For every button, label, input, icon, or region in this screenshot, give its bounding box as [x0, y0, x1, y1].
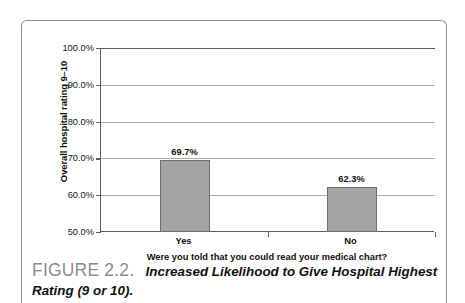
x-category-label: No	[344, 236, 356, 246]
y-tick-label: 100.0%	[32, 43, 94, 53]
gridline	[101, 195, 435, 196]
bar-value-label: 69.7%	[171, 147, 197, 157]
y-tick-mark	[96, 122, 101, 123]
y-tick-mark	[96, 48, 101, 49]
y-tick-mark	[96, 232, 101, 233]
y-tick-mark	[96, 158, 101, 159]
gridline	[101, 85, 435, 86]
x-tick-mark	[268, 232, 269, 237]
y-tick-mark	[96, 85, 101, 86]
y-tick-label: 80.0%	[32, 117, 94, 127]
x-tick-mark	[435, 232, 436, 237]
gridline	[101, 48, 435, 49]
y-tick-label: 90.0%	[32, 80, 94, 90]
bar	[160, 160, 210, 232]
y-tick-label: 50.0%	[32, 227, 94, 237]
bar-value-label: 62.3%	[338, 174, 364, 184]
bar	[327, 187, 377, 232]
bar-chart: Overall hospital rating 9–10 100.0%90.0%…	[21, 20, 447, 258]
gridline	[101, 122, 435, 123]
y-axis-tick-labels: 100.0%90.0%80.0%70.0%60.0%50.0%	[27, 48, 94, 232]
y-tick-mark	[96, 195, 101, 196]
gridline	[101, 158, 435, 159]
y-tick-label: 70.0%	[32, 153, 94, 163]
figure-label: FIGURE 2.2.	[32, 260, 134, 280]
figure-caption: FIGURE 2.2. Increased Likelihood to Give…	[32, 261, 444, 300]
y-tick-label: 60.0%	[32, 190, 94, 200]
plot-area: 69.7%62.3%	[100, 48, 434, 232]
x-category-label: Yes	[175, 236, 191, 246]
